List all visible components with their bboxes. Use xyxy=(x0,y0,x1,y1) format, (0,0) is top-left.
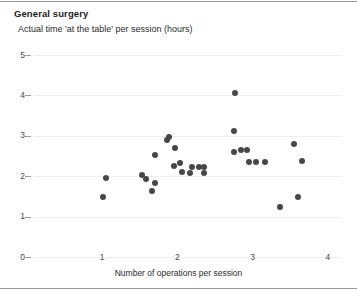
scatter-point xyxy=(196,164,202,170)
scatter-point xyxy=(231,128,237,134)
scatter-point xyxy=(152,152,158,158)
scatter-point xyxy=(277,204,283,210)
scatter-point xyxy=(238,147,244,153)
x-tick-label: 4 xyxy=(316,252,340,262)
scatter-point xyxy=(164,137,170,143)
y-tick-label-wrap: 3 xyxy=(0,130,25,141)
x-axis-label: Number of operations per session xyxy=(0,268,357,278)
y-tick-label: 1 xyxy=(1,211,25,221)
y-tick-label: 2 xyxy=(1,171,25,181)
scatter-point xyxy=(149,188,155,194)
y-tick-mark xyxy=(25,95,31,96)
y-tick-mark xyxy=(25,136,31,137)
scatter-point xyxy=(187,170,193,176)
y-gridline xyxy=(33,176,342,177)
y-tick-mark xyxy=(25,176,31,177)
y-tick-label: 3 xyxy=(1,130,25,140)
y-gridline xyxy=(33,95,342,96)
y-tick-label: 4 xyxy=(1,90,25,100)
scatter-point xyxy=(253,159,259,165)
scatter-point xyxy=(295,194,301,200)
y-tick-label-wrap: 4 xyxy=(0,90,25,101)
y-tick-label-wrap: 5 xyxy=(0,50,25,61)
y-tick-label-wrap: 1 xyxy=(0,211,25,222)
scatter-point xyxy=(246,159,252,165)
y-tick-mark xyxy=(25,55,31,56)
y-tick-label-wrap: 0 xyxy=(0,252,25,263)
scatter-point xyxy=(179,169,185,175)
x-tick-label: 3 xyxy=(241,252,265,262)
chart-panel: General surgery Actual time 'at the tabl… xyxy=(0,0,357,293)
y-gridline xyxy=(33,217,342,218)
scatter-point xyxy=(232,90,238,96)
y-gridline xyxy=(33,55,342,56)
y-tick-label: 0 xyxy=(1,252,25,262)
scatter-point xyxy=(299,158,305,164)
scatter-point xyxy=(262,159,268,165)
y-tick-mark xyxy=(25,257,31,258)
scatter-point xyxy=(143,176,149,182)
y-gridline xyxy=(33,136,342,137)
plot-area: 0123451234 xyxy=(0,0,357,293)
scatter-point xyxy=(152,180,158,186)
scatter-point xyxy=(172,145,178,151)
x-tick-label: 1 xyxy=(90,252,114,262)
y-tick-label-wrap: 2 xyxy=(0,171,25,182)
scatter-point xyxy=(231,149,237,155)
y-tick-mark xyxy=(25,217,31,218)
scatter-point xyxy=(291,141,297,147)
scatter-point xyxy=(171,163,177,169)
scatter-point xyxy=(100,194,106,200)
x-tick-label: 2 xyxy=(165,252,189,262)
scatter-point xyxy=(103,175,109,181)
scatter-point xyxy=(177,160,183,166)
scatter-point xyxy=(244,147,250,153)
y-tick-label: 5 xyxy=(1,50,25,60)
